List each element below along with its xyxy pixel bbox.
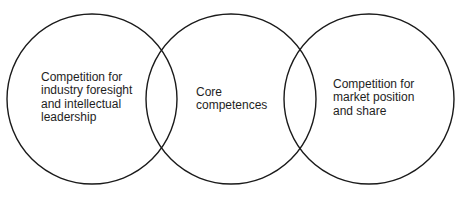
label-industry-foresight: Competition for industry foresight and i… <box>41 71 132 124</box>
label-core-competences: Core competences <box>196 86 267 113</box>
label-line: industry foresight <box>41 84 132 97</box>
label-line: Core <box>196 86 267 99</box>
label-line: Competition for <box>41 71 132 84</box>
label-line: leadership <box>41 111 132 124</box>
label-line: and share <box>333 105 414 118</box>
label-line: Competition for <box>333 78 414 91</box>
label-line: competences <box>196 99 267 112</box>
venn-diagram: Competition for industry foresight and i… <box>0 0 464 203</box>
label-market-position: Competition for market position and shar… <box>333 78 414 118</box>
label-line: and intellectual <box>41 98 132 111</box>
label-line: market position <box>333 91 414 104</box>
